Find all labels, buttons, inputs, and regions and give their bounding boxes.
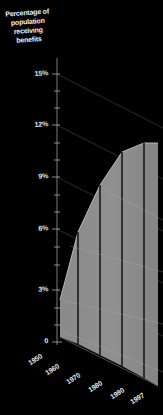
chart-title: Percentage of population receiving benef… (0, 6, 59, 46)
chart-container: Percentage of population receiving benef… (0, 0, 163, 415)
area-chart-plot (0, 0, 163, 415)
